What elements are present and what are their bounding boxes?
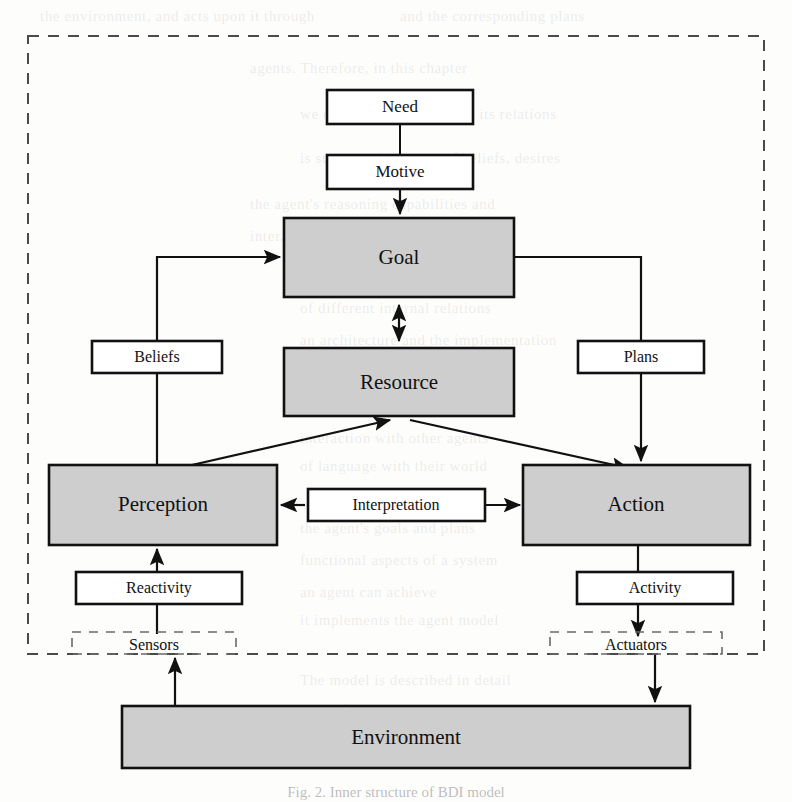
node-reactivity[interactable]: Reactivity: [76, 572, 242, 604]
node-perception-label: Perception: [118, 492, 208, 516]
node-interpretation[interactable]: Interpretation: [308, 489, 485, 521]
node-reactivity-label: Reactivity: [126, 579, 192, 597]
edge-resource-to-action: [410, 420, 628, 468]
node-beliefs[interactable]: Beliefs: [92, 341, 222, 373]
node-action-label: Action: [607, 492, 665, 516]
node-environment-label: Environment: [351, 725, 461, 749]
node-need-label: Need: [382, 97, 418, 116]
agent-architecture-diagram: Need Motive Goal Resource Beliefs Plans: [0, 0, 792, 802]
node-motive-label: Motive: [375, 162, 424, 181]
node-sensors-label: Sensors: [129, 636, 179, 653]
node-action[interactable]: Action: [523, 465, 750, 545]
node-interpretation-label: Interpretation: [352, 496, 439, 514]
figure-page: the environment, and acts upon it throug…: [0, 0, 792, 802]
node-actuators[interactable]: Actuators: [550, 632, 722, 654]
node-actuators-label: Actuators: [605, 636, 667, 653]
node-beliefs-label: Beliefs: [134, 348, 179, 365]
node-activity-label: Activity: [629, 579, 681, 597]
figure-caption: Fig. 2. Inner structure of BDI model: [0, 784, 792, 801]
node-plans-label: Plans: [624, 348, 659, 365]
node-environment[interactable]: Environment: [122, 706, 690, 768]
node-activity[interactable]: Activity: [577, 572, 733, 604]
node-goal-label: Goal: [379, 245, 420, 269]
node-need[interactable]: Need: [327, 90, 473, 124]
node-resource[interactable]: Resource: [284, 348, 514, 416]
node-motive[interactable]: Motive: [327, 155, 473, 189]
node-plans[interactable]: Plans: [578, 341, 704, 373]
node-perception[interactable]: Perception: [49, 465, 277, 545]
edge-perception-to-resource: [170, 420, 390, 470]
node-sensors[interactable]: Sensors: [72, 632, 236, 654]
node-resource-label: Resource: [360, 370, 438, 394]
node-goal[interactable]: Goal: [284, 218, 514, 297]
